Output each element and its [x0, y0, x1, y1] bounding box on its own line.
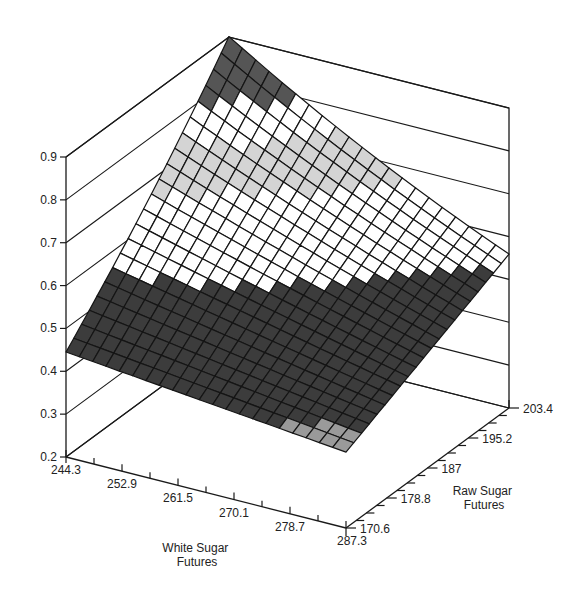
x-tick-label: 261.5 [163, 491, 193, 505]
z-tick-label: 0.8 [40, 193, 57, 207]
x-axis-title: White Sugar Futures [162, 541, 231, 569]
y-tick-label: 170.6 [360, 522, 390, 536]
y-axis-title-line2: Futures [464, 498, 505, 512]
x-tick-label: 270.1 [219, 506, 249, 520]
z-tick-label: 0.3 [40, 407, 57, 421]
x-axis-title-line2: Futures [177, 555, 218, 569]
y-tick-label: 187 [442, 462, 462, 476]
z-tick-label: 0.2 [40, 450, 57, 464]
y-tick-label: 195.2 [482, 432, 512, 446]
x-tick-label: 252.9 [107, 477, 137, 491]
z-tick-label: 0.6 [40, 279, 57, 293]
z-axis-ticks: 0.20.30.40.50.60.70.80.9 [40, 150, 66, 464]
surface-chart: 0.20.30.40.50.60.70.80.9 244.3252.9261.5… [0, 0, 581, 589]
y-axis-title: Raw Sugar Futures [453, 484, 516, 512]
x-axis-title-line1: White Sugar [162, 541, 228, 555]
x-tick-label: 287.3 [337, 534, 367, 548]
surface-mesh [66, 37, 509, 453]
y-tick-label: 178.8 [401, 492, 431, 506]
x-tick-label: 278.7 [275, 520, 305, 534]
y-axis-title-line1: Raw Sugar [453, 484, 512, 498]
x-tick-label: 244.3 [51, 463, 81, 477]
y-tick-label: 203.4 [523, 402, 553, 416]
z-tick-label: 0.4 [40, 364, 57, 378]
z-tick-label: 0.5 [40, 321, 57, 335]
z-tick-label: 0.9 [40, 150, 57, 164]
z-tick-label: 0.7 [40, 236, 57, 250]
